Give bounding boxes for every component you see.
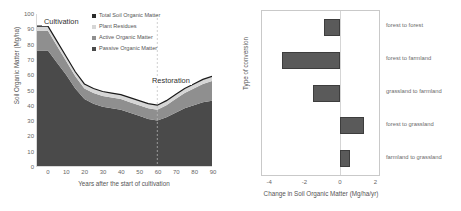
left-chart-x-tick: 10 xyxy=(63,169,70,175)
left-chart-x-tick: 0 xyxy=(46,169,49,175)
right-chart-x-tick: 0 xyxy=(338,179,341,185)
bar-category-label: grassland to farmland xyxy=(386,89,442,95)
panel-area-chart: Soil Organic Matter (Mg/ha) 100908070605… xyxy=(0,0,231,211)
left-chart-x-tick: 60 xyxy=(155,169,162,175)
left-chart-x-tick: 40 xyxy=(118,169,125,175)
annotation-cultivation: Cultivation xyxy=(42,17,81,26)
right-chart-x-tick: 2 xyxy=(374,179,377,185)
left-chart-y-tick: 100 xyxy=(24,11,34,17)
left-chart-y-tick: 10 xyxy=(27,149,34,155)
right-chart-x-tick: -2 xyxy=(302,179,307,185)
bar-farmland-to-grassland xyxy=(340,150,350,167)
left-chart-y-tick: 0 xyxy=(31,164,34,170)
bar-forest-to-forest xyxy=(324,19,340,36)
left-chart-x-axis-label: Years after the start of cultivation xyxy=(36,180,212,187)
left-chart-y-axis-label: Soil Organic Matter (Mg/ha) xyxy=(13,6,20,126)
bar-grassland-to-farmland xyxy=(313,85,340,102)
legend-swatch-icon xyxy=(92,47,96,51)
right-chart-y-axis-label: Type of conversion xyxy=(242,9,249,119)
left-chart-x-tick: 30 xyxy=(100,169,107,175)
bar-forest-to-grassland xyxy=(340,117,364,134)
left-chart-y-tick: 20 xyxy=(27,133,34,139)
bar-category-label: forest to farmland xyxy=(386,56,431,62)
left-chart-y-tick: 60 xyxy=(27,72,34,78)
left-chart-x-tick: 20 xyxy=(81,169,88,175)
bar-category-label: forest to forest xyxy=(386,23,423,29)
left-chart-x-tick: 90 xyxy=(210,169,217,175)
bar-forest-to-farmland xyxy=(282,52,341,69)
legend-item: Active Organic Matter xyxy=(92,33,200,43)
left-chart-x-tick: 50 xyxy=(136,169,143,175)
left-chart-y-tick: 50 xyxy=(27,88,34,94)
legend-item: Passive Organic Matter xyxy=(92,44,200,54)
bar-category-label: forest to grassland xyxy=(386,122,434,128)
panel-bar-chart: Type of conversion -4-202 forest to fore… xyxy=(231,0,461,211)
annotation-restoration: Restoration xyxy=(150,76,192,85)
left-chart-x-tick: 70 xyxy=(173,169,180,175)
left-chart-y-tick: 70 xyxy=(27,57,34,63)
right-chart-plot-area: -4-202 xyxy=(261,10,380,176)
left-chart-x-tick: 80 xyxy=(191,169,198,175)
legend-swatch-icon xyxy=(92,14,96,18)
left-chart-y-tick: 40 xyxy=(27,103,34,109)
right-chart-x-axis-label: Change in Soil Organic Matter (Mg/ha/yr) xyxy=(241,190,401,197)
legend-swatch-icon xyxy=(92,25,96,29)
left-chart-y-tick: 30 xyxy=(27,118,34,124)
figure-two-panel-soil-organic-matter: Soil Organic Matter (Mg/ha) 100908070605… xyxy=(0,0,461,211)
right-chart-x-tick: -4 xyxy=(266,179,271,185)
legend-item-label: Plant Residues xyxy=(99,24,137,30)
legend-item: Total Soil Organic Matter xyxy=(92,11,200,21)
legend-swatch-icon xyxy=(92,36,96,40)
legend-item-label: Total Soil Organic Matter xyxy=(99,13,160,19)
bar-category-label: farmland to grassland xyxy=(386,155,442,161)
legend-item: Plant Residues xyxy=(92,22,200,32)
left-chart-y-tick: 90 xyxy=(27,26,34,32)
legend-item-label: Active Organic Matter xyxy=(99,35,153,41)
left-chart-y-tick: 80 xyxy=(27,42,34,48)
legend-item-label: Passive Organic Matter xyxy=(99,46,157,52)
left-chart-legend: Total Soil Organic MatterPlant ResiduesA… xyxy=(92,11,200,55)
